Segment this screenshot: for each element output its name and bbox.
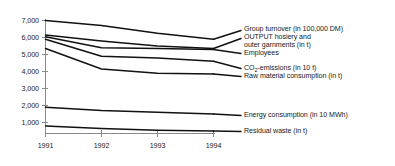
x-tick-label: 1994 — [206, 141, 222, 150]
series-line — [46, 21, 214, 40]
x-tick-label: 1993 — [150, 141, 166, 150]
y-tick-label: 7,000 — [22, 16, 40, 25]
x-axis-tick-labels: 1991 1992 1993 1994 — [38, 141, 222, 150]
legend-leader-line — [214, 49, 242, 53]
legend-leader-line — [214, 31, 242, 40]
legend-leader-line — [214, 131, 242, 132]
x-tick-label: 1992 — [94, 141, 110, 150]
x-tick-label: 1991 — [38, 141, 54, 150]
series-line — [46, 126, 214, 131]
y-tick-label: 3,000 — [22, 84, 40, 93]
legend-leader-line — [214, 114, 242, 116]
legend-leader-line — [214, 74, 242, 76]
y-tick-label: 4,000 — [22, 67, 40, 76]
chart-canvas: 7,000 6,000 5,000 4,000 3,000 2,000 1,00… — [0, 0, 395, 166]
y-tick-label: 1,000 — [22, 118, 40, 127]
series-line — [46, 107, 214, 114]
y-axis-tick-labels: 7,000 6,000 5,000 4,000 3,000 2,000 1,00… — [22, 16, 40, 127]
series-layer — [46, 21, 214, 132]
y-tick-label: 5,000 — [22, 50, 40, 59]
legend-leader-line — [214, 39, 242, 49]
legend-leader-line — [214, 61, 242, 68]
series-line — [46, 49, 214, 75]
y-tick-label: 2,000 — [22, 101, 40, 110]
y-tick-label: 6,000 — [22, 33, 40, 42]
legend-leader-lines — [214, 31, 242, 132]
line-chart: 7,000 6,000 5,000 4,000 3,000 2,000 1,00… — [0, 0, 395, 166]
